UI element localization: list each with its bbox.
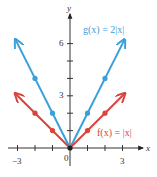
y-tick-label-3: 3 [59,90,64,100]
g-data-point [32,76,37,81]
y-tick-label-6: 6 [59,38,64,48]
f-right-branch [70,94,124,148]
f-data-point [32,111,37,116]
f-data-point [50,128,55,133]
x-tick-label-3: 3 [120,156,125,166]
absolute-value-graph: −3 0 3 3 6 x y g(x) = 2|x| f(x) = |x| [0,0,157,177]
f-left-branch [16,94,70,148]
origin-label: 0 [64,153,69,163]
g-function-label: g(x) = 2|x| [83,24,124,36]
x-tick-label-neg3: −3 [12,156,22,166]
g-data-point [85,111,90,116]
f-function-label: f(x) = |x| [97,127,132,139]
f-data-point [85,128,90,133]
x-axis-label: x [145,143,150,153]
g-data-point [102,76,107,81]
origin-point [67,145,72,150]
g-data-point [50,111,55,116]
y-axis-label: y [66,3,71,13]
f-data-point [102,111,107,116]
